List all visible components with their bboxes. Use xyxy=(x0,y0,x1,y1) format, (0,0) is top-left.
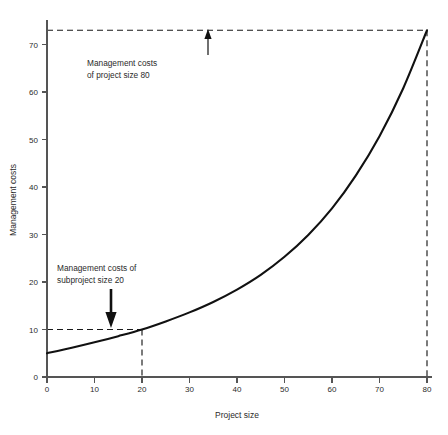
x-tick-label: 30 xyxy=(185,385,194,394)
x-axis-title: Project size xyxy=(215,410,259,420)
y-tick-label: 0 xyxy=(34,373,39,382)
y-tick-label: 10 xyxy=(29,326,38,335)
annotation-line-1: Management costs xyxy=(87,58,157,68)
y-tick-label: 60 xyxy=(29,88,38,97)
x-tick-label: 80 xyxy=(423,385,432,394)
x-tick-label: 0 xyxy=(45,385,50,394)
x-tick-label: 70 xyxy=(375,385,384,394)
x-tick-label: 50 xyxy=(280,385,289,394)
y-tick-label: 40 xyxy=(29,183,38,192)
y-tick-label: 30 xyxy=(29,231,38,240)
chart-background xyxy=(0,0,448,435)
y-tick-label: 50 xyxy=(29,136,38,145)
x-tick-label: 60 xyxy=(328,385,337,394)
x-tick-label: 20 xyxy=(138,385,147,394)
chart-figure: 0 10 20 30 40 50 xyxy=(0,0,448,435)
annotation-line-2: of project size 80 xyxy=(87,70,150,80)
x-tick-label: 10 xyxy=(90,385,99,394)
y-tick-label: 20 xyxy=(29,278,38,287)
management-costs-line-chart: 0 10 20 30 40 50 xyxy=(0,0,448,435)
y-tick-label: 70 xyxy=(29,41,38,50)
y-axis-title: Management costs xyxy=(8,164,18,236)
annotation-line-1: Management costs of xyxy=(57,263,137,273)
annotation-line-2: subproject size 20 xyxy=(57,275,124,285)
x-tick-label: 40 xyxy=(233,385,242,394)
